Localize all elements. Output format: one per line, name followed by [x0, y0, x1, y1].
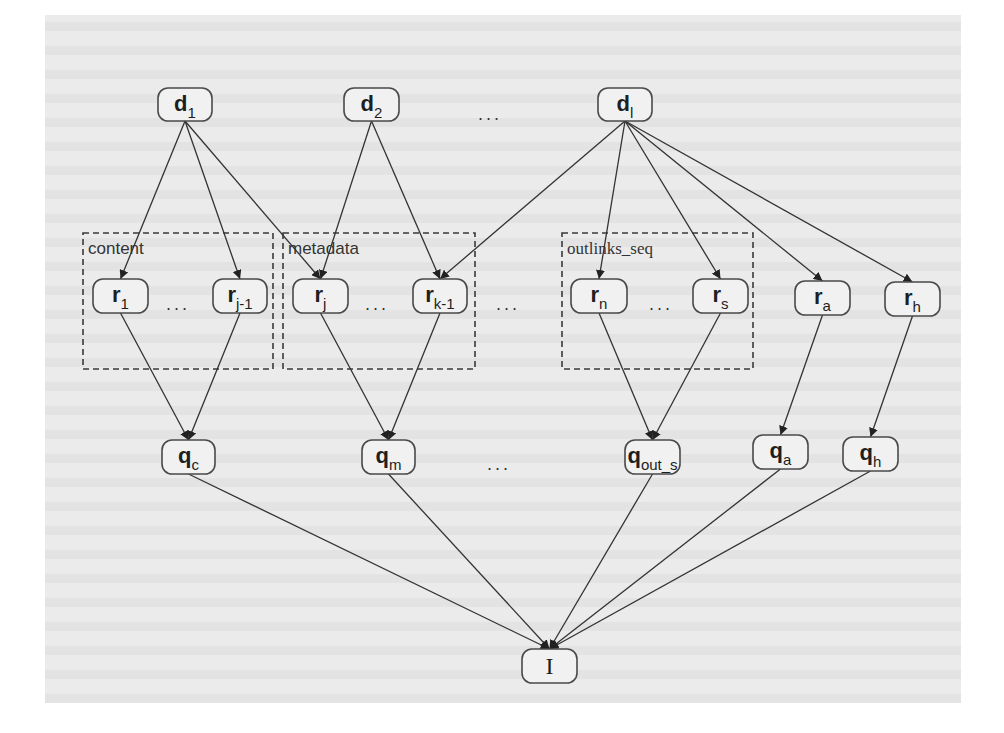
edge-dl-to-ra — [625, 121, 823, 281]
node-subscript: s — [721, 295, 729, 312]
node-I: I — [522, 649, 577, 683]
ellipsis-dots-metadata: ... — [365, 294, 389, 314]
node-rs: rs — [693, 279, 748, 313]
edge-d1-to-rj-1 — [185, 121, 240, 279]
node-subscript: k-1 — [434, 295, 455, 312]
edge-rj-1-to-qc — [189, 313, 241, 440]
node-qc: qc — [162, 440, 215, 474]
group-label: outlinks_seq — [567, 239, 653, 258]
nodes: d1d2dlr1rj-1rjrk-1rnrsrarhqcqmqout_sqaqh… — [93, 88, 940, 683]
ellipsis-dots-d-row: ... — [478, 104, 502, 124]
node-subscript: 1 — [188, 104, 196, 121]
node-subscript: h — [873, 453, 881, 470]
edge-rh-to-qh — [871, 316, 913, 437]
edge-rn-to-qout_s — [599, 313, 653, 440]
node-rj: rj — [293, 279, 348, 313]
edge-d2-to-rk-1 — [372, 121, 441, 279]
node-base-symbol: q — [860, 440, 873, 465]
node-d2: d2 — [344, 88, 399, 121]
node-base-symbol: d — [361, 91, 374, 116]
node-ra: ra — [795, 281, 850, 315]
node-base-symbol: d — [174, 91, 187, 116]
edge-rk-1-to-qm — [389, 313, 441, 440]
edge-d1-to-r1 — [121, 121, 186, 279]
node-base-symbol: q — [627, 443, 640, 468]
node-subscript: 1 — [121, 295, 129, 312]
node-base-symbol: q — [178, 443, 191, 468]
edge-rs-to-qout_s — [653, 313, 721, 440]
node-rk-1: rk-1 — [413, 279, 467, 313]
node-subscript: 2 — [374, 104, 382, 121]
node-base-symbol: q — [376, 443, 389, 468]
node-base-symbol: d — [617, 91, 630, 116]
node-subscript: c — [191, 456, 199, 473]
node-r1: r1 — [93, 279, 148, 313]
node-subscript: j — [322, 295, 326, 312]
node-subscript: out_s — [641, 456, 678, 473]
node-rh: rh — [885, 282, 940, 316]
edge-qh-to-I — [550, 471, 871, 649]
node-qh: qh — [843, 437, 898, 471]
edge-qm-to-I — [389, 474, 550, 649]
node-subscript: l — [630, 104, 633, 121]
node-qm: qm — [362, 440, 415, 474]
node-dl: dl — [598, 88, 652, 121]
node-subscript: a — [783, 451, 792, 468]
ellipsis-dots-between-groups: ... — [496, 294, 520, 314]
document-graph-diagram: contentmetadataoutlinks_seq d1d2dlr1rj-1… — [0, 0, 1004, 733]
node-label: I — [546, 653, 554, 679]
node-subscript: n — [599, 295, 607, 312]
node-rn: rn — [571, 279, 627, 313]
edge-d1-to-rj — [185, 121, 321, 279]
ellipsis-dots-content: ... — [166, 294, 190, 314]
node-base-symbol: q — [770, 438, 783, 463]
node-subscript: m — [389, 456, 402, 473]
edge-r1-to-qc — [121, 313, 189, 440]
edge-rj-to-qm — [321, 313, 389, 440]
ellipsis-dots-outlinks: ... — [649, 294, 673, 314]
edges — [121, 121, 913, 649]
node-subscript: a — [823, 297, 832, 314]
edge-dl-to-rh — [625, 121, 913, 282]
node-subscript: h — [913, 298, 921, 315]
node-d1: d1 — [158, 88, 212, 121]
edge-qa-to-I — [550, 469, 781, 649]
edge-ra-to-qa — [781, 315, 823, 435]
edge-qout_s-to-I — [550, 474, 653, 649]
edge-qc-to-I — [189, 474, 550, 649]
ellipsis-dots-q-row: ... — [487, 454, 511, 474]
group-label: metadata — [288, 239, 359, 258]
node-qa: qa — [753, 435, 808, 469]
node-qout_s: qout_s — [625, 440, 680, 474]
node-rj-1: rj-1 — [213, 279, 267, 313]
node-subscript: j-1 — [235, 295, 253, 312]
